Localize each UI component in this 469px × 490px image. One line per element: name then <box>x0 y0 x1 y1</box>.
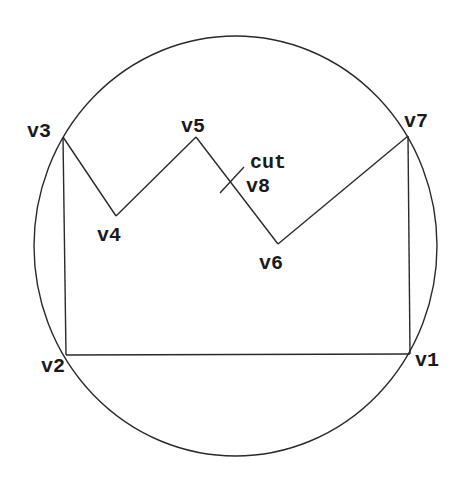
edge-v7-v1 <box>408 136 410 354</box>
cut-mark <box>220 167 244 193</box>
edge-v4-v5 <box>116 137 196 216</box>
edge-v2-v3 <box>63 137 66 355</box>
edge-v3-v4 <box>63 137 116 216</box>
vertex-label-v4: v4 <box>97 224 121 247</box>
edge-v1-v2 <box>66 354 410 355</box>
vertex-label-v2: v2 <box>41 355 65 378</box>
bounding-circle <box>34 36 437 456</box>
vertex-label-v7: v7 <box>404 110 428 133</box>
polygon-circle-diagram: v1 v2 v3 v4 v5 v6 v7 cut v8 <box>0 0 469 490</box>
vertex-label-v6: v6 <box>259 252 283 275</box>
edge-v6-v7 <box>278 136 408 244</box>
cut-label: cut <box>250 151 286 174</box>
vertex-label-v3: v3 <box>27 120 51 143</box>
vertex-label-v8: v8 <box>246 175 270 198</box>
vertex-label-v5: v5 <box>181 115 205 138</box>
vertex-label-v1: v1 <box>415 349 439 372</box>
